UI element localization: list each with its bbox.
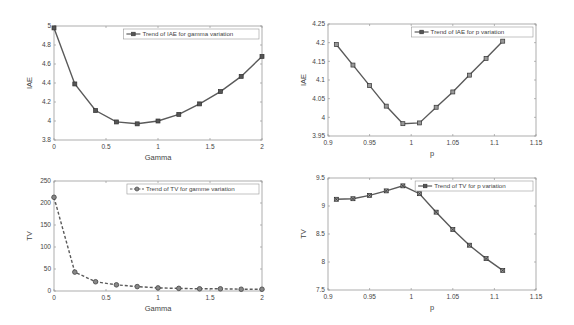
y-tick-label: 4 <box>321 114 325 121</box>
data-point-marker <box>351 63 355 67</box>
x-axis-label: p <box>430 149 434 158</box>
data-point-marker <box>334 43 338 47</box>
y-axis-label: TV <box>25 231 34 241</box>
plot-area <box>54 181 262 291</box>
y-tick-label: 5 <box>47 22 51 29</box>
y-axis-label: IAE <box>299 74 308 86</box>
data-point-marker <box>52 26 56 30</box>
chart-iae_gamma: 00.511.523.844.24.44.64.85GammaIAETrend … <box>25 22 264 162</box>
x-tick-label: 0.95 <box>363 139 376 146</box>
y-tick-label: 100 <box>40 243 51 250</box>
figure-grid: 00.511.523.844.24.44.64.85GammaIAETrend … <box>0 0 574 325</box>
y-tick-label: 50 <box>44 265 52 272</box>
x-tick-label: 1.5 <box>205 143 214 150</box>
data-point-marker <box>484 56 488 60</box>
legend: Trend of IAE for gamma variation <box>123 29 259 39</box>
data-point-marker <box>239 287 244 292</box>
chart-iae_p: 0.90.9511.051.11.153.9544.054.14.154.24.… <box>299 20 543 158</box>
figure-canvas: 00.511.523.844.24.44.64.85GammaIAETrend … <box>0 0 574 325</box>
data-point-marker <box>52 195 57 200</box>
legend-label: Trend of IAE for p variation <box>431 28 505 35</box>
data-point-marker <box>135 122 139 126</box>
data-point-marker <box>156 286 161 291</box>
x-tick-label: 1 <box>409 139 413 146</box>
data-point-marker <box>218 90 222 94</box>
x-tick-label: 1 <box>409 293 413 300</box>
y-tick-label: 250 <box>40 177 51 184</box>
x-axis-label: Gamma <box>145 304 173 313</box>
data-point-marker <box>451 90 455 94</box>
y-tick-label: 4.2 <box>316 39 325 46</box>
x-tick-label: 2 <box>260 294 264 301</box>
y-tick-label: 150 <box>40 221 51 228</box>
x-tick-label: 0.9 <box>323 139 332 146</box>
data-point-marker <box>114 283 119 288</box>
y-tick-label: 4.8 <box>42 41 51 48</box>
data-point-marker <box>197 287 202 292</box>
y-tick-label: 9.5 <box>316 174 325 181</box>
chart-tv_gamma: 00.511.52050100150200250GammaTVTrend of … <box>25 177 264 313</box>
data-point-marker <box>177 286 182 291</box>
data-point-marker <box>198 102 202 106</box>
x-tick-label: 1.5 <box>205 294 214 301</box>
y-tick-label: 4.05 <box>312 95 325 102</box>
x-tick-label: 1.1 <box>490 293 499 300</box>
x-tick-label: 0.95 <box>363 293 376 300</box>
x-tick-label: 0.5 <box>101 143 110 150</box>
legend-label: Trend of IAE for gamma variation <box>142 30 233 37</box>
data-point-marker <box>177 112 181 116</box>
y-tick-label: 8 <box>321 258 325 265</box>
data-point-marker <box>501 39 505 43</box>
chart-tv_p: 0.90.9511.051.11.157.588.599.5pTVTrend o… <box>299 174 543 312</box>
y-tick-label: 4.2 <box>42 98 51 105</box>
data-point-marker <box>156 119 160 123</box>
x-tick-label: 1.15 <box>530 139 543 146</box>
legend: Trend of TV for gamme variation <box>127 184 259 194</box>
y-tick-label: 4.1 <box>316 76 325 83</box>
x-tick-label: 1 <box>156 143 160 150</box>
data-point-marker <box>135 284 140 289</box>
data-point-marker <box>434 105 438 109</box>
data-point-marker <box>94 109 98 113</box>
data-point-marker <box>368 84 372 88</box>
x-tick-label: 1.1 <box>490 139 499 146</box>
data-point-marker <box>260 287 265 292</box>
y-tick-label: 4 <box>47 117 51 124</box>
legend-label: Trend of TV for gamme variation <box>146 185 235 192</box>
data-point-marker <box>93 279 98 284</box>
y-tick-label: 8.5 <box>316 230 325 237</box>
x-tick-label: 0.9 <box>323 293 332 300</box>
x-axis-label: Gamma <box>145 153 173 162</box>
data-point-marker <box>114 120 118 124</box>
data-point-marker <box>418 121 422 125</box>
x-tick-label: 0.5 <box>101 294 110 301</box>
data-point-marker <box>260 54 264 58</box>
y-tick-label: 3.8 <box>42 136 51 143</box>
data-point-marker <box>239 74 243 78</box>
x-tick-label: 1.15 <box>530 293 543 300</box>
data-point-marker <box>467 73 471 77</box>
y-tick-label: 4.15 <box>312 58 325 65</box>
data-point-marker <box>401 122 405 126</box>
data-point-marker <box>73 270 78 275</box>
y-axis-label: IAE <box>25 77 34 89</box>
y-tick-label: 4.25 <box>312 20 325 27</box>
y-tick-label: 200 <box>40 199 51 206</box>
legend-label: Trend of TV for p variation <box>434 182 506 189</box>
data-point-marker <box>384 104 388 108</box>
x-tick-label: 0 <box>52 294 56 301</box>
x-axis-label: p <box>430 303 434 312</box>
legend: Trend of IAE for p variation <box>412 27 533 37</box>
x-tick-label: 1.05 <box>446 139 459 146</box>
x-tick-label: 2 <box>260 143 264 150</box>
plot-area <box>328 178 536 290</box>
data-point-marker <box>218 287 223 292</box>
y-tick-label: 3.95 <box>312 132 325 139</box>
x-tick-label: 0 <box>52 143 56 150</box>
y-tick-label: 0 <box>47 287 51 294</box>
data-point-marker <box>73 82 77 86</box>
y-axis-label: TV <box>299 229 308 239</box>
x-tick-label: 1.05 <box>446 293 459 300</box>
legend: Trend of TV for p variation <box>415 181 533 191</box>
y-tick-label: 4.6 <box>42 60 51 67</box>
